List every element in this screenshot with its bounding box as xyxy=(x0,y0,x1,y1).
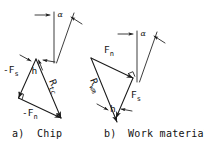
panel-a-label-minus-Fn: -Fn xyxy=(22,107,38,121)
panel-a-label-minus-Fs-base: -F xyxy=(3,64,15,75)
panel-a-label-Rtc-group: Rtc xyxy=(44,77,62,96)
panel-a-h-arrow-right xyxy=(43,60,55,62)
panel-b-label-Fn-sub: n xyxy=(110,50,114,58)
panel-a-label-Rtc-sub: tc xyxy=(47,85,58,96)
panel-a-alpha-label: α xyxy=(58,10,64,19)
panel-b-label-Fn: Fn xyxy=(104,44,114,58)
force-diagram-canvas: α h -Fs Rtc -Fn a) xyxy=(0,0,204,147)
panel-a-h-label: h xyxy=(32,65,38,76)
panel-a-label-minus-Fn-base: -F xyxy=(22,107,34,118)
panel-b-label-Fs: Fs xyxy=(131,89,141,103)
panel-b-h-arrow-right xyxy=(121,109,132,111)
panel-b-label-Rwm: Rwm xyxy=(85,77,103,95)
panel-b-h-arrow-left xyxy=(97,104,108,110)
panel-a-alpha-arrow-right xyxy=(71,17,82,24)
force-diagram-figure: α h -Fs Rtc -Fn a) xyxy=(0,0,204,147)
panel-b-label-Rwm-sub: wm xyxy=(88,84,99,95)
panel-a-h-arrow-left xyxy=(20,55,31,61)
panel-b-alpha-arrow-right xyxy=(154,36,165,43)
panel-a-label-minus-Fn-sub: n xyxy=(33,113,37,121)
panel-a-chip: α h -Fs Rtc -Fn a) xyxy=(3,10,82,140)
panel-a-label-Rtc: Rtc xyxy=(44,77,62,96)
panel-b-h-label: h xyxy=(110,103,116,114)
panel-a-label-minus-Fs: -Fs xyxy=(3,64,19,78)
panel-a-label-minus-Fs-sub: s xyxy=(14,70,18,78)
panel-b-work-material: α h Fn Rwm Fs b) Wo xyxy=(85,29,204,140)
panel-b-label-Rwm-group: Rwm xyxy=(85,77,103,95)
panel-b-label-Fs-sub: s xyxy=(137,95,141,103)
panel-b-right-angle-mark xyxy=(128,72,135,77)
panel-a-rake-face-line xyxy=(57,13,75,63)
panel-a-caption-label: Chip xyxy=(37,128,62,139)
panel-a-caption-index: a) xyxy=(12,128,25,139)
panel-b-caption-label: Work material xyxy=(128,128,204,139)
panel-b-vector-Fn xyxy=(91,58,133,78)
panel-b-caption-index: b) xyxy=(104,128,117,139)
panel-b-rake-face-line xyxy=(140,32,158,82)
panel-b-alpha-label: α xyxy=(141,29,147,38)
